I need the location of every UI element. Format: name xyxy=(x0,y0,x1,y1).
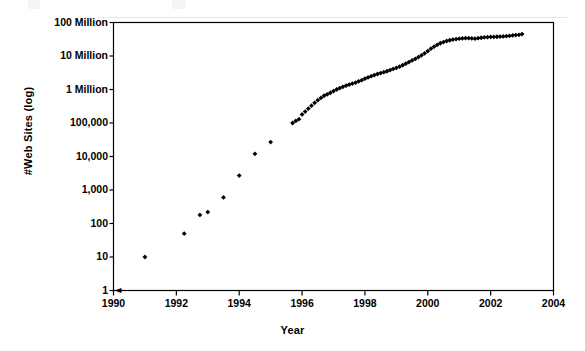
plot-area xyxy=(0,0,585,351)
chart-figure: #Web Sites (log) Year 1101001,00010,0001… xyxy=(0,0,585,351)
plot-frame xyxy=(114,23,554,291)
axis-frame xyxy=(114,23,554,291)
